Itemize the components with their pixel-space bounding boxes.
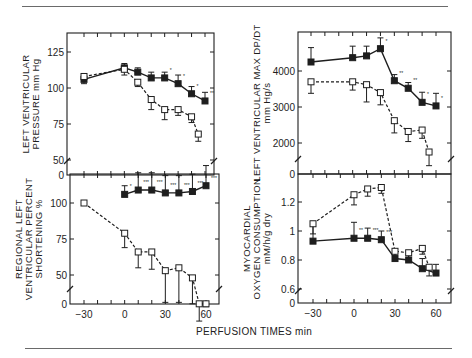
significance-mark: * [197, 83, 199, 89]
series-filled: ******* [308, 38, 443, 109]
y-tick-label: 100 [47, 83, 64, 94]
x-tick-label: 0 [351, 308, 357, 319]
open-square-marker [378, 185, 384, 191]
plot-frame [67, 33, 214, 175]
x-tick-label: −30 [305, 308, 322, 319]
y-axis-label: mM/h/g dry [261, 213, 272, 265]
open-square-marker [310, 221, 316, 227]
x-tick-label: 60 [430, 308, 442, 319]
significance-mark: * [427, 91, 429, 97]
open-square-marker [176, 265, 182, 271]
filled-square-marker [310, 238, 316, 244]
series-open [308, 79, 432, 166]
filled-square-marker [377, 46, 383, 52]
panel-regional-shortening: −300306050751000REGIONAL LEFTVENTRICULAR… [13, 166, 222, 322]
open-square-marker [122, 230, 128, 236]
significance-mark: *** [373, 227, 379, 233]
y-tick-label: 1.2 [281, 197, 295, 208]
filled-square-marker [308, 59, 314, 65]
open-square-marker [405, 128, 411, 134]
panel-lv-pressure: 50751001250LEFT VENTRICULARPRESSURE mm H… [20, 33, 217, 181]
open-square-marker [419, 127, 425, 133]
filled-square-marker [148, 75, 154, 81]
y-zero-label: 0 [289, 298, 295, 309]
figure-panels: 50751001250LEFT VENTRICULARPRESSURE mm H… [0, 0, 472, 358]
significance-mark: ** [399, 70, 403, 76]
series-line [311, 49, 436, 106]
y-axis-label: SHORTENING % [33, 199, 44, 278]
y-tick-label: 75 [53, 119, 65, 130]
filled-square-marker [189, 91, 195, 97]
open-square-marker [392, 248, 398, 254]
open-square-marker [162, 107, 168, 113]
y-tick-label: 125 [47, 47, 64, 58]
x-tick-label: 0 [122, 309, 128, 320]
filled-square-marker [378, 237, 384, 243]
filled-square-marker [419, 99, 425, 105]
filled-square-marker [391, 78, 397, 84]
significance-mark: *** [211, 175, 217, 181]
series-filled: ***** [81, 64, 214, 104]
series-line [84, 203, 206, 304]
filled-square-marker [175, 81, 181, 87]
filled-square-marker [350, 55, 356, 61]
open-square-marker [308, 79, 314, 85]
series-line [84, 68, 205, 101]
significance-mark: ** [210, 90, 214, 96]
series-line [313, 238, 436, 273]
panel-myocardial-o2: −30030600.60.811.20MYOCARDIALOXYGEN CONS… [241, 174, 454, 319]
y-tick-label: 50 [53, 155, 65, 166]
open-square-marker [121, 66, 127, 72]
x-tick-label: 60 [200, 309, 212, 320]
open-square-marker [135, 79, 141, 85]
x-tick-label: 30 [160, 309, 172, 320]
y-tick-label: 2000 [273, 138, 296, 149]
y-tick-label: 75 [56, 234, 68, 245]
open-square-marker [162, 268, 168, 274]
open-square-marker [351, 192, 357, 198]
open-square-marker [365, 186, 371, 192]
significance-mark: *** [157, 179, 163, 185]
open-square-marker [203, 301, 209, 307]
open-square-marker [195, 131, 201, 137]
y-tick-label: 3000 [273, 102, 296, 113]
x-tick-label: 30 [389, 308, 401, 319]
y-tick-label: 1 [289, 226, 295, 237]
open-square-marker [364, 82, 370, 88]
y-tick-label: 100 [50, 198, 67, 209]
filled-square-marker [122, 191, 128, 197]
y-tick-label: 0.8 [281, 255, 295, 266]
open-square-marker [419, 245, 425, 251]
series-open [81, 200, 209, 321]
significance-mark: * [441, 95, 443, 101]
filled-square-marker [202, 98, 208, 104]
open-square-marker [148, 97, 154, 103]
open-square-marker [377, 90, 383, 96]
y-zero-label: 0 [61, 299, 67, 310]
open-square-marker [175, 107, 181, 113]
open-square-marker [149, 249, 155, 255]
y-zero-label: 0 [289, 169, 295, 180]
significance-mark: * [385, 38, 387, 44]
filled-square-marker [162, 190, 168, 196]
open-square-marker [426, 149, 432, 155]
open-square-marker [189, 275, 195, 281]
significance-mark: * [183, 73, 185, 79]
filled-square-marker [135, 69, 141, 75]
filled-square-marker [351, 235, 357, 241]
x-axis-label: PERFUSION TIMES min [196, 326, 312, 337]
open-square-marker [81, 200, 87, 206]
open-square-marker [189, 114, 195, 120]
y-zero-label: 0 [58, 170, 64, 181]
open-square-marker [391, 118, 397, 124]
filled-square-marker [364, 53, 370, 59]
filled-square-marker [135, 187, 141, 193]
filled-square-marker [365, 235, 371, 241]
significance-mark: ** [359, 227, 363, 233]
filled-square-marker [405, 85, 411, 91]
significance-mark: *** [170, 182, 176, 188]
significance-mark: *** [143, 179, 149, 185]
open-square-marker [135, 249, 141, 255]
filled-square-marker [433, 103, 439, 109]
filled-square-marker [176, 190, 182, 196]
